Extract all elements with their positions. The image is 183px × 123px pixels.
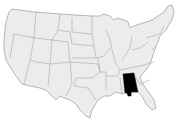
us-locator-map: [0, 0, 183, 123]
